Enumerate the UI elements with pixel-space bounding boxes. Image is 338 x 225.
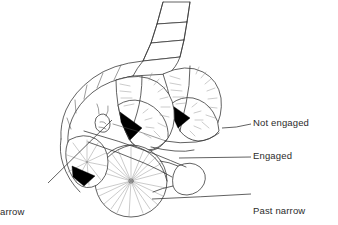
fetal-engagement-figure: .ln { fill:none; stroke:#3a3a3a; stroke-… <box>0 0 338 225</box>
leader-past-narrow <box>152 194 251 199</box>
label-past-narrow-line1: Past narrow <box>253 205 305 217</box>
label-not-engaged: Not engaged <box>253 117 309 129</box>
head-left-occiput <box>66 136 108 188</box>
label-narrow-line1: Narrow <box>0 206 45 218</box>
leader-engaged <box>179 157 251 158</box>
label-narrow-pelvic-plane: Narrow pelvic plane <box>0 182 45 225</box>
head-engaged <box>116 73 174 151</box>
label-engaged: Engaged <box>253 150 292 162</box>
label-past-narrow-pelvic-plane: Past narrow pelvic plane <box>253 181 305 225</box>
leader-not-engaged <box>222 124 251 128</box>
ischial-spine <box>95 104 110 132</box>
